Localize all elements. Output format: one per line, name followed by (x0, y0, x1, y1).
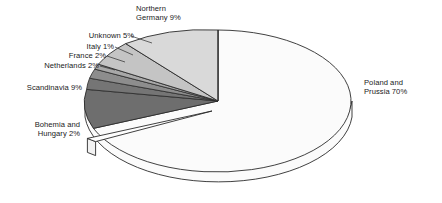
label-northern-germany: Northern Germany 9% (136, 4, 181, 23)
label-netherlands: Netherlands 2% (0, 61, 99, 70)
pie-chart: Northern Germany 9% Unknown 5% Italy 1% … (0, 0, 442, 203)
label-northern-germany-line2: Germany 9% (136, 13, 181, 22)
label-poland-prussia-line1: Poland and (364, 78, 407, 87)
label-italy: Italy 1% (14, 42, 114, 51)
label-scandinavia: Scandinavia 9% (0, 83, 82, 92)
label-bohemia-hungary: Bohemia and Hungary 2% (0, 120, 80, 139)
label-bohemia-hungary-line2: Hungary 2% (0, 129, 80, 138)
label-unknown: Unknown 5% (24, 31, 134, 40)
label-northern-germany-line1: Northern (136, 4, 181, 13)
label-france: France 2% (6, 51, 106, 60)
label-poland-prussia: Poland and Prussia 70% (364, 78, 407, 97)
label-bohemia-hungary-line1: Bohemia and (0, 120, 80, 129)
label-poland-prussia-line2: Prussia 70% (364, 87, 407, 96)
